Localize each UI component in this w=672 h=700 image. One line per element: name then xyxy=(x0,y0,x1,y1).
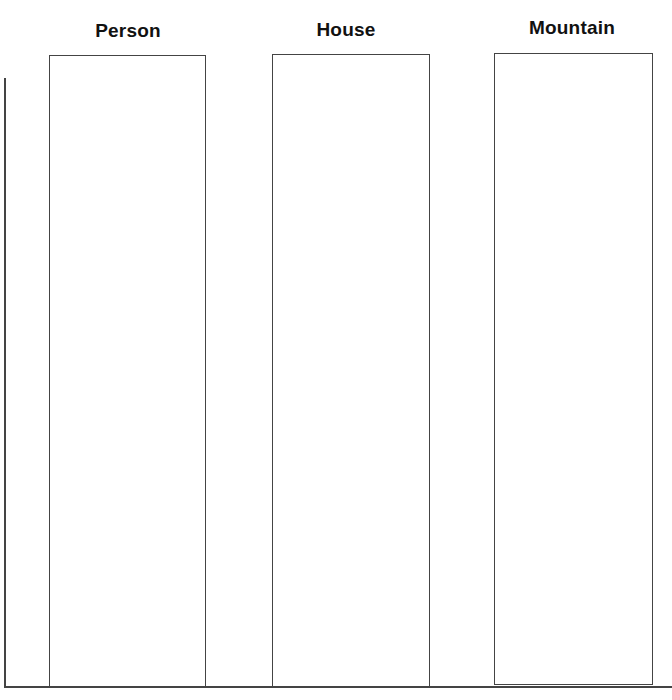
left-border-line xyxy=(4,78,6,688)
sorting-box-mountain xyxy=(494,53,653,685)
bottom-border-line xyxy=(5,686,672,688)
sorting-box-house xyxy=(272,54,430,687)
column-title-person: Person xyxy=(48,20,208,42)
column-title-house: House xyxy=(266,19,426,41)
column-title-mountain: Mountain xyxy=(492,17,652,39)
sorting-box-person xyxy=(49,55,206,688)
